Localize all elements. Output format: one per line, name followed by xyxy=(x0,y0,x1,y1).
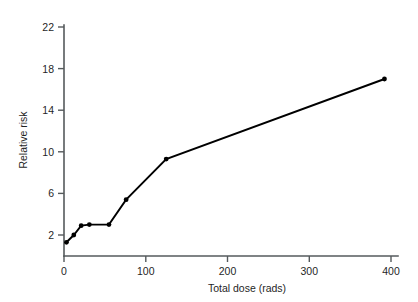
y-axis-group: 22 18 14 10 6 2 Relative risk xyxy=(17,21,64,256)
y-tick-label-18: 18 xyxy=(42,63,54,75)
x-axis-ticks xyxy=(64,256,391,262)
y-tick-label-14: 14 xyxy=(42,104,54,116)
data-point-marker xyxy=(64,240,69,245)
x-axis-title: Total dose (rads) xyxy=(208,282,286,294)
data-point-marker xyxy=(164,157,169,162)
data-point-marker xyxy=(71,233,76,238)
series-line-relative-risk xyxy=(66,79,384,242)
data-point-marker xyxy=(382,77,387,82)
x-tick-label-0: 0 xyxy=(61,265,67,277)
x-tick-label-200: 200 xyxy=(219,265,237,277)
y-axis-title: Relative risk xyxy=(17,111,29,169)
y-axis-tick-labels: 22 18 14 10 6 2 xyxy=(42,21,54,241)
data-point-marker xyxy=(79,223,84,228)
relative-risk-line-chart: 22 18 14 10 6 2 Relative risk 0 100 200 xyxy=(0,0,418,302)
y-tick-label-22: 22 xyxy=(42,21,54,33)
x-axis-group: 0 100 200 300 400 Total dose (rads) xyxy=(61,256,400,294)
y-tick-label-10: 10 xyxy=(42,146,54,158)
chart-figure: 22 18 14 10 6 2 Relative risk 0 100 200 xyxy=(0,0,418,302)
data-point-marker xyxy=(124,197,129,202)
data-point-marker xyxy=(87,222,92,227)
y-tick-label-6: 6 xyxy=(48,187,54,199)
x-tick-label-300: 300 xyxy=(301,265,319,277)
series-group xyxy=(64,77,387,245)
y-tick-label-2: 2 xyxy=(48,229,54,241)
data-point-marker xyxy=(107,222,112,227)
y-axis-ticks xyxy=(58,27,64,235)
x-axis-tick-labels: 0 100 200 300 400 xyxy=(61,265,400,277)
x-tick-label-400: 400 xyxy=(382,265,400,277)
x-tick-label-100: 100 xyxy=(137,265,155,277)
